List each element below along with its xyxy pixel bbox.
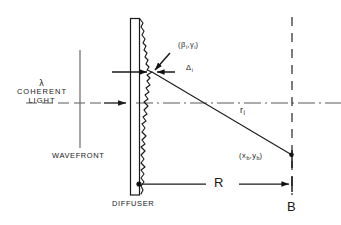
optical-scattering-diagram: λ COHERENT LIGHT WAVEFRONT DIFFUSER (βi,… — [0, 0, 341, 225]
diffuser-plate — [131, 19, 140, 196]
ray-length-label: ri — [240, 105, 245, 116]
scatter-point-leader-arrow — [155, 53, 170, 70]
diffuser-rough-surface-profile — [140, 19, 152, 194]
wavefront-label: WAVEFRONT — [52, 152, 104, 161]
distance-label-R: R — [214, 176, 224, 191]
scatter-point-coordinates-label: (βi,γi) — [178, 41, 199, 50]
diagram-canvas — [0, 0, 341, 225]
diffuser-label: DIFFUSER — [112, 200, 154, 209]
paren-close: ) — [195, 40, 198, 49]
coherent-light-label-group: λ COHERENT LIGHT — [6, 78, 78, 106]
scattered-ray-ri — [152, 72, 294, 157]
plane-label-B: B — [287, 200, 296, 215]
delta-label: Δi — [186, 64, 193, 73]
r-subscript: i — [244, 109, 245, 116]
delta-subscript: i — [192, 67, 193, 73]
light-label: LIGHT — [6, 97, 78, 106]
dimension-origin-dot — [136, 181, 141, 186]
obs-paren-close: ) — [260, 151, 263, 160]
observation-point-coordinates-label: (xb,yb) — [239, 152, 263, 161]
